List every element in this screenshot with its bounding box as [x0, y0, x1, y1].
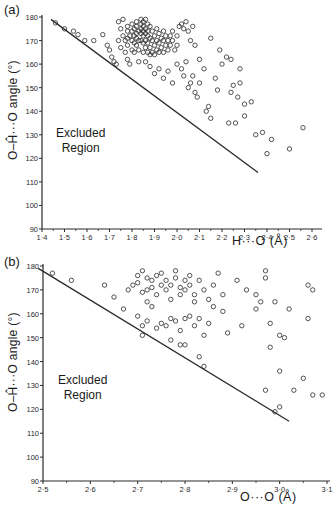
- data-point: [116, 20, 120, 24]
- data-point: [179, 67, 183, 71]
- data-point: [140, 324, 144, 328]
- x-tick-label: 2·2: [217, 233, 228, 242]
- data-point: [145, 276, 149, 280]
- data-point: [121, 34, 125, 38]
- data-point: [135, 281, 139, 285]
- y-tick-label: 150: [26, 334, 39, 343]
- data-point: [311, 393, 315, 397]
- data-point: [268, 345, 272, 349]
- data-point: [306, 283, 310, 287]
- data-point: [112, 295, 116, 299]
- data-point: [268, 321, 272, 325]
- data-point: [76, 32, 80, 36]
- x-tick-label: 2·6: [85, 485, 96, 494]
- data-point: [204, 109, 208, 113]
- data-point: [178, 285, 182, 289]
- data-point: [209, 116, 213, 120]
- data-point: [170, 29, 174, 33]
- data-point: [202, 67, 206, 71]
- data-point: [69, 278, 73, 282]
- data-point: [197, 57, 201, 61]
- data-point: [182, 27, 186, 31]
- data-point: [173, 319, 177, 323]
- x-tick-label: 2·5: [38, 485, 49, 494]
- data-point: [121, 307, 125, 311]
- data-point: [183, 288, 187, 292]
- data-point: [236, 95, 240, 99]
- data-point: [169, 283, 173, 287]
- data-point: [254, 292, 258, 296]
- x-tick-label: 1·6: [82, 233, 93, 242]
- data-point: [121, 17, 125, 21]
- data-point: [125, 24, 129, 28]
- data-point: [301, 376, 305, 380]
- data-point: [263, 276, 267, 280]
- data-point: [238, 81, 242, 85]
- x-tick-label: 1·8: [127, 233, 138, 242]
- data-point: [277, 333, 281, 337]
- data-point: [273, 300, 277, 304]
- y-tick-label: 160: [26, 310, 39, 319]
- data-point: [135, 273, 139, 277]
- data-point: [134, 20, 138, 24]
- data-point: [197, 355, 201, 359]
- data-point: [148, 64, 152, 68]
- y-tick-label: 100: [26, 453, 39, 462]
- data-point: [213, 76, 217, 80]
- data-point: [143, 60, 147, 64]
- data-point: [249, 100, 253, 104]
- data-point: [137, 60, 141, 64]
- data-point: [269, 137, 273, 141]
- data-point: [105, 43, 109, 47]
- data-point: [192, 300, 196, 304]
- data-point: [178, 292, 182, 296]
- data-point: [188, 283, 192, 287]
- data-point: [107, 48, 111, 52]
- data-point: [166, 69, 170, 73]
- y-tick-label: 100: [25, 201, 38, 210]
- data-point: [130, 22, 134, 26]
- data-point: [229, 90, 233, 94]
- data-point: [126, 288, 130, 292]
- data-point: [263, 269, 267, 273]
- x-tick-label: 1·4: [37, 233, 48, 242]
- data-point: [287, 147, 291, 151]
- data-point: [227, 121, 231, 125]
- data-point: [159, 45, 163, 49]
- data-point: [224, 55, 228, 59]
- data-point: [184, 60, 188, 64]
- data-point: [186, 85, 190, 89]
- data-point: [154, 326, 158, 330]
- data-point: [161, 50, 165, 54]
- chart-panel-b: (b) 901001101201301401501601701802·52·62…: [0, 252, 333, 510]
- data-point: [282, 335, 286, 339]
- data-point: [240, 324, 244, 328]
- data-point: [235, 278, 239, 282]
- data-point: [164, 278, 168, 282]
- data-point: [229, 57, 233, 61]
- data-point: [101, 32, 105, 36]
- data-point: [169, 297, 173, 301]
- y-tick-label: 170: [26, 286, 39, 295]
- data-point: [209, 36, 213, 40]
- data-point: [157, 31, 161, 35]
- x-tick-label: 1·9: [149, 233, 160, 242]
- data-point: [141, 50, 145, 54]
- y-tick-label: 140: [26, 358, 39, 367]
- x-axis-label-a: H···O (Å): [232, 234, 288, 248]
- data-point: [178, 343, 182, 347]
- data-point: [211, 283, 215, 287]
- data-point: [175, 34, 179, 38]
- data-point: [206, 104, 210, 108]
- data-point: [161, 29, 165, 33]
- data-point: [145, 288, 149, 292]
- data-point: [242, 102, 246, 106]
- data-point: [183, 278, 187, 282]
- data-point: [231, 83, 235, 87]
- data-point: [164, 43, 168, 47]
- data-point: [211, 304, 215, 308]
- data-point: [102, 283, 106, 287]
- data-point: [161, 76, 165, 80]
- data-point: [215, 88, 219, 92]
- data-point: [259, 300, 263, 304]
